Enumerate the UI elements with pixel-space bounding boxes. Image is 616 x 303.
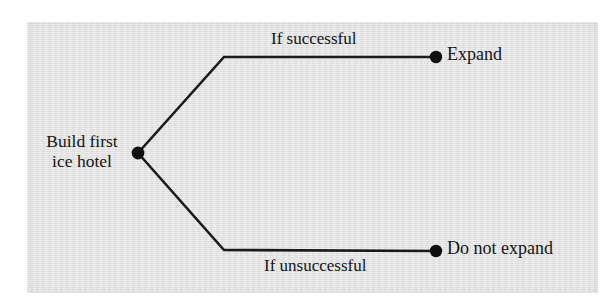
branch-line-unsuccessful — [138, 153, 436, 251]
branch-label-if-unsuccessful: If unsuccessful — [264, 256, 366, 276]
outcome-label-expand: Expand — [447, 44, 502, 65]
branch-line-successful — [138, 57, 436, 153]
terminal-node-do-not-expand — [430, 245, 442, 257]
decision-tree-figure: Build first ice hotel If successful Expa… — [0, 0, 616, 303]
outcome-label-do-not-expand: Do not expand — [447, 238, 553, 259]
terminal-node-expand — [430, 51, 442, 63]
root-node-label-line2: ice hotel — [33, 151, 131, 171]
root-decision-node — [132, 147, 145, 160]
root-node-label-line1: Build first — [33, 131, 131, 151]
root-node-label: Build first ice hotel — [33, 131, 131, 171]
branch-label-if-successful: If successful — [271, 29, 356, 49]
